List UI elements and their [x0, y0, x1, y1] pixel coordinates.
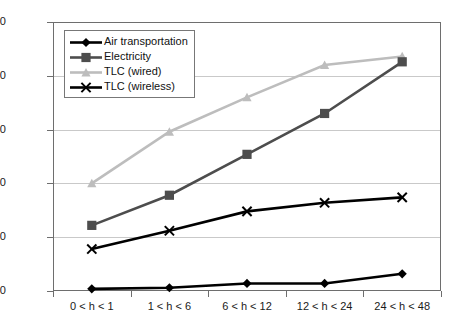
x-axis-category-label: 0 < h < 1	[70, 300, 113, 312]
y-axis-tick-label: 2,50	[0, 15, 6, 27]
x-axis-tick-mark	[53, 291, 54, 297]
legend-label: TLC (wireless)	[104, 80, 175, 93]
data-point-diamond	[242, 279, 251, 288]
y-axis-tick-label: 2,00	[0, 69, 6, 81]
legend-item: Air transportation	[69, 34, 188, 49]
y-axis-tick-label: 1,00	[0, 176, 6, 188]
chart-legend: Air transportationElectricityTLC (wired)…	[64, 30, 195, 98]
x-axis-tick-mark	[208, 291, 209, 297]
legend-item: TLC (wired)	[69, 64, 188, 79]
data-point-diamond	[87, 284, 96, 293]
x-axis-tick-mark	[131, 291, 132, 297]
legend-item: TLC (wireless)	[69, 79, 188, 94]
data-point-square	[320, 109, 329, 118]
data-point-diamond	[398, 269, 407, 278]
data-point-diamond	[81, 38, 90, 47]
legend-item: Electricity	[69, 49, 188, 64]
y-axis-tick-label: 1,50	[0, 123, 6, 135]
x-axis-category-label: 6 < h < 12	[222, 300, 272, 312]
legend-label: Air transportation	[104, 35, 188, 48]
series-air-transportation	[87, 269, 407, 293]
data-point-diamond	[320, 279, 329, 288]
y-axis-tick-label: 0,50	[0, 230, 6, 242]
x-axis-tick-mark	[363, 291, 364, 297]
x-axis-tick-mark	[286, 291, 287, 297]
x-axis-category-label: 1 < h < 6	[148, 300, 191, 312]
data-point-square	[87, 221, 96, 230]
y-axis-tick-label: 0,00	[0, 284, 6, 296]
data-point-diamond	[165, 283, 174, 292]
data-point-square	[242, 150, 251, 159]
legend-key-diamond-icon	[69, 35, 103, 48]
data-point-square	[398, 57, 407, 66]
legend-label: Electricity	[104, 50, 151, 63]
x-axis-category-label: 24 < h < 48	[374, 300, 430, 312]
series-tlc-wireless	[87, 193, 407, 254]
line-chart: 0,000,501,001,502,002,50 0 < h < 11 < h …	[0, 0, 464, 326]
data-point-square	[81, 53, 90, 62]
data-point-square	[165, 191, 174, 200]
legend-key-x-icon	[69, 80, 103, 93]
legend-key-square-icon	[69, 50, 103, 63]
x-axis-category-label: 12 < h < 24	[297, 300, 353, 312]
legend-key-triangle-icon	[69, 65, 103, 78]
x-axis-tick-mark	[441, 291, 442, 297]
series-line	[92, 197, 402, 249]
legend-label: TLC (wired)	[104, 65, 161, 78]
